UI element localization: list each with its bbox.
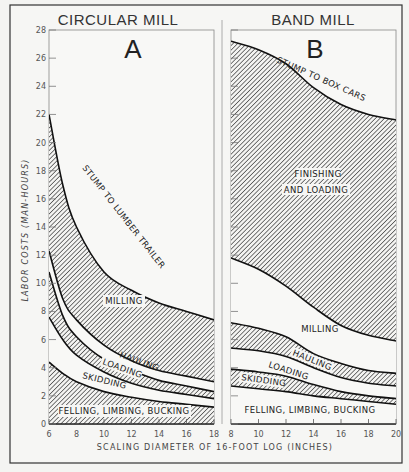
- svg-text:12: 12: [36, 251, 46, 260]
- svg-text:18: 18: [209, 430, 219, 439]
- svg-text:16: 16: [181, 430, 191, 439]
- svg-text:10: 10: [36, 279, 46, 288]
- svg-text:6: 6: [46, 430, 51, 439]
- y-axis-title: LABOR COSTS (MAN-HOURS): [21, 158, 30, 301]
- svg-text:16: 16: [36, 195, 46, 204]
- svg-text:8: 8: [41, 307, 46, 316]
- svg-text:20: 20: [36, 139, 46, 148]
- panel-a-plot: A 0246810121416182022242628 681012141618: [36, 26, 219, 439]
- svg-text:8: 8: [74, 430, 79, 439]
- svg-text:28: 28: [36, 26, 46, 35]
- svg-text:AND LOADING: AND LOADING: [284, 185, 349, 195]
- svg-text:18: 18: [36, 167, 46, 176]
- svg-text:18: 18: [363, 430, 373, 439]
- panel-b-title: BAND MILL: [271, 11, 355, 28]
- svg-text:4: 4: [41, 364, 46, 373]
- svg-text:10: 10: [253, 430, 263, 439]
- svg-text:6: 6: [41, 336, 46, 345]
- panel-b-letter: B: [306, 34, 323, 64]
- svg-text:2: 2: [41, 392, 46, 401]
- svg-text:MILLING: MILLING: [105, 296, 143, 306]
- label-felling-b: FELLING, LIMBING, BUCKING: [245, 405, 376, 415]
- svg-text:12: 12: [281, 430, 291, 439]
- label-milling-b: MILLING: [301, 324, 339, 334]
- svg-text:0: 0: [41, 420, 46, 429]
- svg-text:8: 8: [228, 430, 233, 439]
- x-axis-title: SCALING DIAMETER OF 16-FOOT LOG (INCHES): [97, 443, 333, 452]
- label-milling-a: MILLING: [103, 295, 145, 307]
- svg-text:14: 14: [36, 223, 46, 232]
- svg-text:14: 14: [154, 430, 164, 439]
- svg-text:10: 10: [99, 430, 109, 439]
- svg-text:FINISHING: FINISHING: [294, 169, 341, 179]
- figure: CIRCULAR MILL BAND MILL A 02468101214161…: [0, 0, 409, 472]
- svg-text:14: 14: [308, 430, 318, 439]
- svg-text:FELLING, LIMBING, BUCKING: FELLING, LIMBING, BUCKING: [59, 406, 190, 416]
- svg-text:26: 26: [36, 54, 46, 63]
- svg-text:22: 22: [36, 110, 46, 119]
- svg-text:24: 24: [36, 82, 46, 91]
- panel-a-title: CIRCULAR MILL: [58, 11, 179, 28]
- panel-a-letter: A: [124, 34, 142, 64]
- svg-text:12: 12: [126, 430, 136, 439]
- svg-text:16: 16: [336, 430, 346, 439]
- svg-text:20: 20: [391, 430, 401, 439]
- label-felling-a: FELLING, LIMBING, BUCKING: [58, 405, 191, 417]
